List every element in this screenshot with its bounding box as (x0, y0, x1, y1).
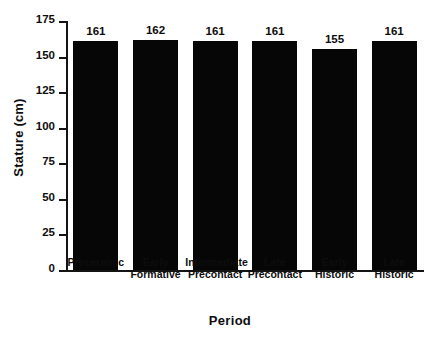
y-axis-tick: 100 (59, 128, 66, 130)
y-axis-tick: 50 (59, 199, 66, 201)
bar[interactable]: 161 (252, 41, 297, 270)
y-axis-tick-label: 25 (42, 226, 55, 238)
y-axis-tick: 25 (59, 234, 66, 236)
y-axis-tick: 175 (59, 21, 66, 23)
x-axis-category-label: EarlyFormative (126, 256, 186, 280)
bar[interactable]: 161 (193, 41, 238, 270)
bar[interactable]: 161 (372, 41, 417, 270)
y-axis-tick-label: 125 (36, 84, 55, 96)
category-label-line: Historic (305, 268, 365, 280)
y-axis-tick-label: 100 (36, 120, 55, 132)
category-label-line: Precontact (245, 268, 305, 280)
x-axis-category-label: Preceramic (66, 256, 126, 268)
x-axis-category-label: LateHistoric (364, 256, 424, 280)
bar-value-label: 161 (206, 25, 225, 37)
bar[interactable]: 155 (312, 49, 357, 270)
category-label-line: Late (245, 256, 305, 268)
category-label-line: Early (126, 256, 186, 268)
plot-area: 1751501251007550250 161162161161155161 (66, 21, 424, 272)
x-axis-title: Period (60, 313, 400, 328)
x-axis-category-label: EarlyHistoric (305, 256, 365, 280)
y-axis-tick: 150 (59, 57, 66, 59)
category-label-line: Intermediate (185, 256, 245, 268)
x-axis-category-label: IntermediatePrecontact (185, 256, 245, 280)
category-label-line: Late (364, 256, 424, 268)
bar-value-label: 161 (385, 25, 404, 37)
x-axis-category-label: LatePrecontact (245, 256, 305, 280)
bar-value-label: 161 (265, 25, 284, 37)
category-label-line: Precontact (185, 268, 245, 280)
y-axis-line (66, 21, 68, 272)
category-label-line: Historic (364, 268, 424, 280)
y-axis-tick-label: 75 (42, 155, 55, 167)
bar[interactable]: 162 (133, 40, 178, 271)
y-axis-tick-label: 0 (49, 262, 55, 274)
y-axis-title: Stature (cm) (11, 68, 26, 208)
y-axis-tick: 75 (59, 163, 66, 165)
y-axis-tick-label: 50 (42, 191, 55, 203)
category-label-line: Early (305, 256, 365, 268)
bar-value-label: 161 (86, 25, 105, 37)
y-axis-tick-label: 150 (36, 49, 55, 61)
y-axis-tick-label: 175 (36, 13, 55, 25)
bar-value-label: 155 (325, 33, 344, 45)
bar[interactable]: 161 (73, 41, 118, 270)
bar-chart-figure: Stature (cm) 1751501251007550250 1611621… (0, 0, 429, 341)
y-axis-tick: 0 (59, 270, 66, 272)
bar-value-label: 162 (146, 24, 165, 36)
category-label-line: Preceramic (66, 256, 126, 268)
y-axis-tick: 125 (59, 92, 66, 94)
category-label-line: Formative (126, 268, 186, 280)
